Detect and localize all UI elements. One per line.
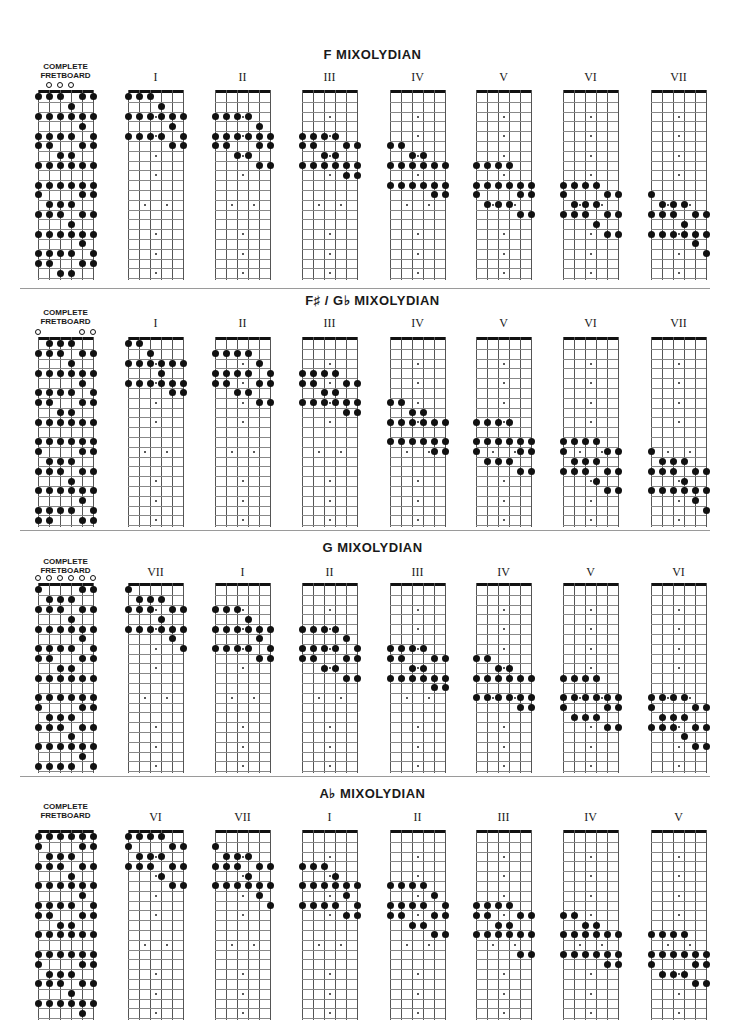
note-dot <box>409 152 416 159</box>
note-dot <box>79 380 86 387</box>
fret-line <box>563 999 618 1000</box>
fret-line <box>38 703 93 704</box>
section-title: G MIXOLYDIAN <box>0 540 745 555</box>
note-dot <box>409 419 416 426</box>
fret-marker <box>329 875 331 877</box>
fret-line <box>128 842 183 843</box>
fret-line <box>128 170 183 171</box>
note-dot <box>147 93 154 100</box>
note-dot <box>147 626 154 633</box>
fret-line <box>476 229 531 230</box>
fret-marker <box>253 451 255 453</box>
fret-marker <box>417 895 419 897</box>
fret-line <box>563 219 618 220</box>
note-dot <box>495 665 502 672</box>
note-dot <box>398 399 405 406</box>
fret-line <box>651 683 706 684</box>
fret-marker <box>155 746 157 748</box>
note-dot <box>79 1010 86 1017</box>
note-dot <box>35 863 42 870</box>
note-dot <box>234 606 241 613</box>
fret-marker <box>503 746 505 748</box>
note-dot <box>136 380 143 387</box>
note-dot <box>571 694 578 701</box>
note-dot <box>256 863 263 870</box>
note-dot <box>267 626 274 633</box>
position-label: III <box>292 70 367 85</box>
fret-marker <box>503 116 505 118</box>
fret-line <box>476 595 531 596</box>
fret-line <box>38 359 93 360</box>
note-dot <box>659 971 666 978</box>
fret-marker <box>329 519 331 521</box>
string-line <box>161 583 162 773</box>
note-dot <box>68 645 75 652</box>
note-dot <box>46 468 53 475</box>
note-dot <box>560 951 567 958</box>
fret-marker <box>329 402 331 404</box>
note-dot <box>604 211 611 218</box>
fret-line <box>128 249 183 250</box>
fret-marker <box>155 174 157 176</box>
note-dot <box>46 724 53 731</box>
fret-line <box>215 131 270 132</box>
fret-line <box>476 239 531 240</box>
note-dot <box>245 626 252 633</box>
note-dot <box>299 380 306 387</box>
fret-line <box>390 486 445 487</box>
fret-line <box>215 180 270 181</box>
note-dot <box>571 438 578 445</box>
fret-line <box>476 920 531 921</box>
string-line <box>607 583 608 773</box>
note-dot <box>495 458 502 465</box>
note-dot <box>90 704 97 711</box>
note-dot <box>79 743 86 750</box>
note-dot <box>223 142 230 149</box>
note-dot <box>670 468 677 475</box>
fret-line <box>476 771 531 772</box>
note-dot <box>57 468 64 475</box>
fret-marker <box>242 628 244 630</box>
note-dot <box>57 694 64 701</box>
fret-marker <box>318 204 320 206</box>
fret-line <box>302 771 357 772</box>
fret-line <box>128 1018 183 1019</box>
fret-line <box>563 427 618 428</box>
note-dot <box>703 980 710 987</box>
nut-bar <box>651 583 706 586</box>
note-dot <box>234 882 241 889</box>
string-line <box>445 830 446 1020</box>
fret-line <box>476 378 531 379</box>
note-dot <box>517 191 524 198</box>
fret-line <box>215 761 270 762</box>
fret-line <box>215 457 270 458</box>
note-dot <box>681 714 688 721</box>
fret-line <box>651 673 706 674</box>
fret-line <box>215 466 270 467</box>
note-dot <box>332 389 339 396</box>
fret-line <box>476 515 531 516</box>
note-dot <box>354 675 361 682</box>
fret-line <box>563 161 618 162</box>
nut-bar <box>38 830 93 833</box>
fret-line <box>38 614 93 615</box>
note-dot <box>659 694 666 701</box>
fret-line <box>651 515 706 516</box>
note-dot <box>442 162 449 169</box>
nut-bar <box>302 90 357 93</box>
note-dot <box>495 182 502 189</box>
fret-line <box>38 683 93 684</box>
position-label: IV <box>466 565 541 580</box>
note-dot <box>90 93 97 100</box>
note-dot <box>57 201 64 208</box>
position-label: VII <box>641 316 716 331</box>
note-dot <box>35 487 42 494</box>
string-line <box>607 830 608 1020</box>
position-label: II <box>292 565 367 580</box>
fret-line <box>476 466 531 467</box>
fret-line <box>563 842 618 843</box>
fret-line <box>215 486 270 487</box>
fret-marker <box>492 944 494 946</box>
fret-line <box>215 170 270 171</box>
fret-line <box>215 249 270 250</box>
